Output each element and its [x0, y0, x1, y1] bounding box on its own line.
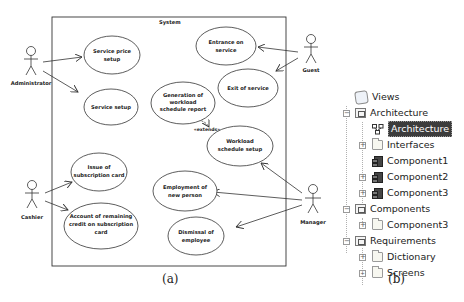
use-case-account-of-remaining-credit: Account of remaining credit on subscript…: [64, 203, 138, 249]
use-case-entrance-on-service: Entrance on service: [196, 27, 256, 65]
tree-item-component1[interactable]: Component1: [374, 154, 448, 168]
assoc-manager-employment: [213, 192, 302, 200]
tree-item-requirements-view[interactable]: Requirements: [355, 234, 436, 248]
tree-item-component2[interactable]: Component2: [374, 170, 448, 184]
actor-cashier: [25, 181, 39, 209]
expand-icon[interactable]: +: [359, 222, 366, 229]
use-case-issue-of-subscription-card: Issue of subscription card: [71, 153, 127, 191]
expand-icon[interactable]: +: [359, 142, 366, 149]
folder-icon: [372, 220, 383, 230]
folder-icon: [372, 268, 383, 278]
use-case-employment-of-new-person: Employment of new person: [153, 171, 217, 211]
tree-label: Requirements: [370, 234, 436, 248]
tree-label: Interfaces: [387, 138, 434, 152]
views-icon: [354, 90, 369, 105]
tree-view: Views − Architecture Architecture + Inte…: [340, 88, 464, 263]
svg-text:Dismissal of: Dismissal of: [178, 229, 214, 235]
use-case-diagram: System Administrator Guest Cashier Manag…: [0, 0, 340, 302]
caption-b: (b): [388, 272, 405, 286]
tree-label: Component1: [387, 154, 448, 168]
tree-label: Component2: [387, 170, 448, 184]
svg-text:credit on subscription: credit on subscription: [69, 221, 134, 228]
assoc-manager-workload: [261, 163, 302, 193]
tree-item-architecture-view[interactable]: Architecture: [355, 106, 428, 120]
actor-label-cashier: Cashier: [21, 214, 43, 220]
tree-item-views[interactable]: Views: [355, 90, 400, 104]
tree-label: Components: [370, 202, 430, 216]
use-case-exit-of-service: Exit of service: [218, 69, 278, 107]
assoc-manager-dismissal: [236, 205, 302, 227]
svg-text:Generation of: Generation of: [163, 92, 204, 98]
svg-text:schedule report: schedule report: [160, 106, 207, 113]
use-case-service-setup: Service setup: [84, 89, 138, 125]
assoc-cashier-issue: [45, 182, 72, 193]
use-case-workload-schedule-setup: Workload schedule setup: [207, 126, 273, 166]
use-case-generation-of-workload-schedule-report: Generation of workload schedule report: [151, 82, 215, 124]
svg-text:Exit of service: Exit of service: [227, 85, 269, 91]
tree-item-component3[interactable]: Component3: [374, 186, 448, 200]
system-label: System: [159, 19, 181, 26]
svg-text:employee: employee: [182, 237, 211, 244]
svg-text:Entrance on: Entrance on: [208, 39, 243, 45]
actor-administrator: [24, 47, 38, 76]
assoc-cashier-account: [45, 201, 68, 210]
expand-icon[interactable]: +: [359, 270, 366, 277]
svg-text:Employment of: Employment of: [163, 184, 208, 191]
expand-icon[interactable]: +: [359, 190, 366, 197]
tree-item-interfaces[interactable]: Interfaces: [372, 138, 434, 152]
expand-icon[interactable]: +: [359, 174, 366, 181]
collapse-icon[interactable]: −: [343, 206, 350, 213]
tree-item-architecture-diagram[interactable]: Architecture: [372, 122, 452, 136]
svg-text:schedule setup: schedule setup: [218, 146, 263, 153]
use-case-service-price-setup: Service price setup: [84, 36, 140, 74]
svg-text:subscription card: subscription card: [74, 172, 125, 179]
component-icon: [374, 188, 383, 199]
tree-label: Component3: [387, 186, 448, 200]
svg-text:workload: workload: [170, 99, 197, 105]
tree-item-dictionary[interactable]: Dictionary: [372, 250, 436, 264]
assoc-admin-price: [43, 57, 82, 62]
assoc-guest-exit: [276, 58, 298, 71]
svg-text:Workload: Workload: [226, 138, 254, 144]
use-case-dismissal-of-employee: Dismissal of employee: [168, 217, 224, 255]
component-icon: [374, 172, 383, 183]
diagram-icon: [372, 124, 384, 135]
assoc-guest-entrance: [258, 47, 298, 52]
view-icon: [355, 108, 366, 118]
svg-text:Service setup: Service setup: [91, 104, 131, 111]
svg-text:Issue of: Issue of: [88, 164, 112, 170]
svg-text:Account of remaining: Account of remaining: [70, 213, 133, 220]
folder-icon: [372, 252, 383, 262]
view-icon: [355, 204, 366, 214]
view-icon: [355, 236, 366, 246]
actor-label-guest: Guest: [302, 67, 320, 73]
actor-manager: [305, 185, 321, 214]
folder-icon: [372, 140, 383, 150]
actor-label-administrator: Administrator: [11, 80, 52, 86]
tree-label: Component3: [387, 218, 448, 232]
expand-icon[interactable]: +: [359, 254, 366, 261]
svg-text:Service price: Service price: [93, 48, 131, 55]
caption-a: (a): [162, 272, 179, 286]
tree-label: Views: [372, 90, 400, 104]
svg-text:setup: setup: [104, 56, 121, 63]
tree-label: Dictionary: [387, 250, 436, 264]
actor-label-manager: Manager: [300, 219, 326, 226]
collapse-icon[interactable]: −: [343, 238, 350, 245]
svg-text:card: card: [95, 229, 108, 235]
component-icon: [374, 156, 383, 167]
collapse-icon[interactable]: −: [343, 110, 350, 117]
tree-label: Architecture: [370, 106, 428, 120]
tree-item-components-component3[interactable]: Component3: [372, 218, 448, 232]
svg-text:service: service: [216, 47, 237, 53]
extends-label: «extends»: [194, 127, 221, 132]
tree-item-components-view[interactable]: Components: [355, 202, 430, 216]
actor-guest: [304, 35, 318, 64]
svg-text:new person: new person: [168, 192, 202, 199]
tree-label-selected: Architecture: [388, 121, 452, 137]
